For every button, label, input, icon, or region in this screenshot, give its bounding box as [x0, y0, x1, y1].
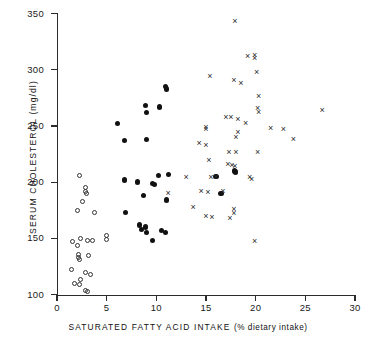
data-point-cross	[190, 204, 196, 210]
data-point-filled-circle	[123, 210, 128, 215]
data-point-cross	[235, 116, 241, 122]
data-point-cross	[165, 190, 171, 196]
data-point-cross	[196, 140, 202, 146]
scatter-plot-area	[0, 0, 376, 339]
data-point-open-circle	[77, 282, 82, 287]
data-point-cross	[205, 189, 211, 195]
data-point-open-circle	[90, 238, 95, 243]
data-point-cross	[213, 174, 219, 180]
data-point-cross	[203, 126, 209, 132]
data-point-cross	[206, 157, 212, 163]
data-point-cross	[254, 69, 260, 75]
data-point-cross	[232, 163, 238, 169]
data-point-filled-circle	[156, 173, 161, 178]
data-point-cross	[268, 125, 274, 131]
data-point-cross	[226, 149, 232, 155]
data-point-open-circle	[69, 267, 74, 272]
data-point-filled-circle	[135, 179, 140, 184]
data-point-cross	[233, 134, 239, 140]
data-point-cross	[228, 114, 234, 120]
data-point-cross	[233, 149, 239, 155]
data-point-cross	[280, 126, 286, 132]
data-point-filled-circle	[150, 238, 155, 243]
data-point-open-circle	[78, 236, 83, 241]
data-point-filled-circle	[144, 110, 149, 115]
data-point-filled-circle	[115, 121, 120, 126]
data-point-cross	[220, 188, 226, 194]
data-point-filled-circle	[144, 230, 149, 235]
data-point-open-circle	[77, 257, 82, 262]
data-point-cross	[207, 73, 213, 79]
data-point-cross	[238, 80, 244, 86]
data-point-cross	[256, 109, 262, 115]
data-point-open-circle	[85, 289, 90, 294]
data-point-cross	[183, 174, 189, 180]
data-point-open-circle	[84, 191, 89, 196]
data-point-cross	[256, 93, 262, 99]
data-point-cross	[232, 18, 238, 24]
data-point-cross	[290, 136, 296, 142]
data-point-filled-circle	[141, 193, 146, 198]
data-point-filled-circle	[144, 137, 149, 142]
data-point-open-circle	[75, 208, 80, 213]
data-point-cross	[249, 176, 255, 182]
data-point-open-circle	[75, 243, 80, 248]
data-point-filled-circle	[152, 182, 157, 187]
data-point-cross	[203, 142, 209, 148]
data-point-open-circle	[88, 272, 93, 277]
data-point-open-circle	[77, 173, 82, 178]
data-point-cross	[209, 214, 215, 220]
data-point-cross	[243, 120, 249, 126]
data-point-filled-circle	[122, 138, 127, 143]
data-point-cross	[252, 238, 258, 244]
data-point-cross	[198, 188, 204, 194]
data-point-filled-circle	[164, 197, 169, 202]
data-point-filled-circle	[166, 172, 171, 177]
data-point-filled-circle	[122, 177, 127, 182]
data-point-open-circle	[78, 277, 83, 282]
data-point-filled-circle	[164, 86, 169, 91]
data-point-cross	[319, 107, 325, 113]
data-point-filled-circle	[163, 230, 168, 235]
data-point-open-circle	[80, 199, 85, 204]
data-point-cross	[245, 53, 251, 59]
data-point-cross	[231, 77, 237, 83]
data-point-cross	[255, 149, 261, 155]
data-point-cross	[252, 55, 258, 61]
data-point-filled-circle	[143, 103, 148, 108]
data-point-filled-circle	[157, 104, 162, 109]
data-point-open-circle	[104, 237, 109, 242]
chart-root: 100150200250300350 051015202530 SERUM CH…	[0, 0, 376, 339]
data-point-open-circle	[86, 253, 91, 258]
data-point-open-circle	[92, 210, 97, 215]
data-point-filled-circle	[143, 224, 148, 229]
data-point-cross	[227, 215, 233, 221]
